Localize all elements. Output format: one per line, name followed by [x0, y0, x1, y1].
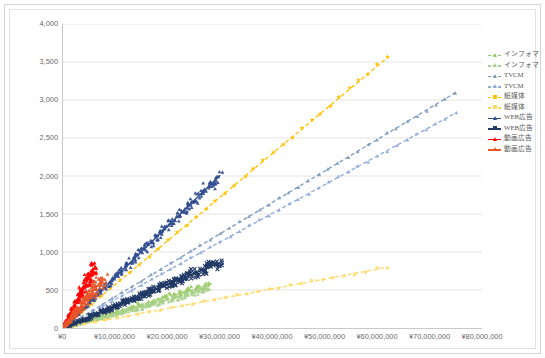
data-point — [129, 265, 133, 268]
data-point — [136, 311, 141, 316]
data-point — [147, 309, 152, 314]
data-point — [385, 265, 390, 270]
legend-marker-icon — [488, 72, 501, 80]
data-point — [443, 97, 447, 100]
data-point — [244, 291, 249, 296]
plot-area — [62, 24, 482, 329]
legend-marker-icon — [488, 83, 501, 91]
data-point — [365, 71, 370, 76]
legend-item[interactable]: 動画広告 — [488, 145, 545, 154]
chart-inner-border: 05001,0001,5002,0002,5003,0003,5004,000 … — [9, 9, 536, 349]
data-point — [77, 285, 81, 288]
y-axis-tick: 1,000 — [12, 249, 58, 257]
data-point — [306, 179, 310, 182]
legend-item[interactable]: WEB広告 — [488, 113, 545, 122]
series-4 — [63, 111, 458, 328]
data-point — [208, 245, 212, 248]
x-axis-tick: ¥60,000,000 — [356, 332, 397, 342]
data-point — [189, 285, 193, 288]
data-point — [347, 85, 352, 90]
legend-item[interactable]: WEB広告 — [488, 124, 545, 133]
y-axis-tick: 4,000 — [12, 20, 58, 28]
legend-label: TVCM — [504, 82, 545, 90]
data-point — [255, 289, 260, 294]
data-point — [193, 267, 197, 271]
x-axis-tick: ¥10,000,000 — [94, 332, 135, 342]
y-axis-tick: 3,500 — [12, 58, 58, 66]
x-axis-tick: ¥70,000,000 — [409, 332, 450, 342]
data-point — [212, 198, 217, 203]
data-point — [169, 267, 173, 270]
data-point — [120, 291, 124, 294]
legend-label: 動画広告 — [504, 134, 545, 142]
data-point — [342, 273, 347, 278]
legend-marker-icon — [488, 114, 501, 122]
legend-item[interactable]: インフォマ — [488, 61, 545, 70]
legend-item[interactable]: TVCM — [488, 71, 545, 80]
data-point — [309, 117, 314, 122]
legend-label: TVCM — [504, 71, 545, 79]
legend-item[interactable]: インフォマ — [488, 50, 545, 59]
legend-marker-icon — [488, 51, 501, 59]
data-point — [330, 275, 335, 280]
data-point — [336, 161, 340, 164]
legend-item[interactable]: 動画広告 — [488, 134, 545, 143]
y-axis-tick: 2,500 — [12, 134, 58, 142]
y-axis-tick: 500 — [12, 287, 58, 295]
series-3 — [63, 91, 457, 328]
data-point — [290, 135, 295, 140]
data-point — [106, 272, 110, 275]
data-point — [434, 122, 438, 125]
data-point — [190, 302, 195, 307]
x-axis-tick: ¥40,000,000 — [251, 332, 292, 342]
data-point — [204, 206, 209, 211]
data-point — [385, 131, 389, 134]
data-point — [454, 111, 458, 114]
data-point — [167, 228, 171, 231]
legend-marker-icon — [488, 62, 501, 70]
x-axis-tick: ¥50,000,000 — [304, 332, 345, 342]
plot-svg — [63, 24, 482, 328]
data-point — [228, 226, 232, 229]
legend-label: 動画広告 — [504, 145, 545, 153]
data-point — [167, 291, 171, 294]
x-axis-tick: ¥0 — [58, 332, 66, 342]
x-axis-tick: ¥20,000,000 — [146, 332, 187, 342]
legend-marker-icon — [488, 135, 501, 143]
data-point — [117, 277, 122, 282]
legend-marker-icon — [488, 93, 501, 101]
data-point — [336, 175, 340, 178]
data-point — [201, 181, 205, 184]
data-point — [296, 198, 300, 201]
data-point — [212, 297, 217, 302]
data-point — [320, 277, 325, 282]
chart-frame: 05001,0001,5002,0002,5003,0003,5004,000 … — [4, 4, 541, 354]
chart-legend: インフォマインフォマTVCMTVCM紙媒体紙媒体WEB広告WEB広告動画広告動画… — [488, 50, 545, 155]
y-axis-tick: 3,000 — [12, 96, 58, 104]
data-point — [288, 282, 293, 287]
data-point — [170, 217, 174, 220]
legend-label: 紙媒体 — [504, 103, 545, 111]
data-point — [158, 308, 163, 313]
data-point — [276, 285, 281, 290]
data-point — [94, 275, 98, 278]
y-axis-tick: 1,500 — [12, 211, 58, 219]
data-point — [83, 273, 87, 276]
legend-label: インフォマ — [504, 50, 545, 58]
data-point — [196, 292, 200, 295]
legend-item[interactable]: TVCM — [488, 82, 545, 91]
data-point — [218, 170, 222, 173]
data-point — [177, 219, 181, 222]
legend-marker-icon — [488, 104, 501, 112]
y-axis-tick: 2,000 — [12, 173, 58, 181]
legend-label: 紙媒体 — [504, 92, 545, 100]
data-point — [186, 201, 190, 204]
legend-item[interactable]: 紙媒体 — [488, 92, 545, 101]
data-point — [180, 303, 185, 308]
legend-label: インフォマ — [504, 61, 545, 69]
x-axis-tick: ¥30,000,000 — [199, 332, 240, 342]
data-point — [159, 236, 163, 239]
x-axis-tick: ¥80,000,000 — [461, 332, 502, 342]
data-point — [119, 266, 123, 269]
legend-item[interactable]: 紙媒体 — [488, 103, 545, 112]
